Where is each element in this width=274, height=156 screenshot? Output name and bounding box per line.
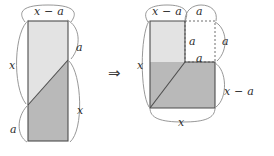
figure-canvas bbox=[0, 0, 274, 156]
label-left-left-lower: a bbox=[10, 124, 17, 135]
label-right-bottom-width: x bbox=[178, 117, 184, 128]
label-left-left-upper: x bbox=[9, 60, 15, 71]
label-right-inner-vertical: a bbox=[189, 36, 196, 47]
right-light-region bbox=[150, 21, 185, 62]
left-brace-left-lower bbox=[19, 106, 27, 142]
label-left-right-lower: x bbox=[77, 105, 83, 116]
left-brace-left-upper bbox=[17, 20, 29, 104]
implication-arrow-icon: ⇒ bbox=[108, 66, 121, 81]
label-right-top-left-width: x − a bbox=[152, 6, 182, 17]
label-right-inner-horizontal: a bbox=[196, 53, 203, 64]
label-right-top-right-width: a bbox=[196, 6, 203, 17]
label-right-right-height: x − a bbox=[224, 86, 254, 97]
label-left-right-upper: a bbox=[76, 42, 83, 53]
left-figure-group bbox=[17, 5, 80, 142]
geometry-figure: x − a a x x a ⇒ x − a a a a a x x − a x bbox=[0, 0, 274, 156]
right-figure-group bbox=[142, 5, 225, 122]
left-brace-right-lower bbox=[69, 61, 80, 142]
label-right-dotted-height: a bbox=[222, 36, 229, 47]
label-right-left-height: x bbox=[137, 60, 143, 71]
right-dark-region bbox=[150, 62, 215, 108]
label-left-top-width: x − a bbox=[34, 6, 64, 17]
